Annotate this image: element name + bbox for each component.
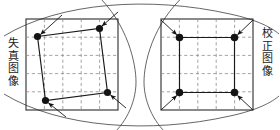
corner-dot: [96, 25, 103, 32]
label-char: 像: [256, 66, 278, 79]
label-char: 图: [2, 63, 24, 76]
distorted-image-label: 失 真 图 像: [2, 38, 24, 88]
label-char: 失: [2, 38, 24, 51]
corner-dot: [104, 89, 111, 96]
distortion-correction-figure: [0, 0, 280, 130]
label-char: 校: [256, 28, 278, 41]
corner-dot: [34, 33, 41, 40]
label-char: 像: [2, 76, 24, 89]
corner-dot: [42, 97, 49, 104]
label-char: 图: [256, 53, 278, 66]
corner-dot: [231, 89, 239, 97]
corner-dot: [231, 34, 239, 42]
corner-dot: [176, 89, 184, 97]
corner-dot: [176, 34, 184, 42]
corrected-image-label: 校 正 图 像: [256, 28, 278, 78]
